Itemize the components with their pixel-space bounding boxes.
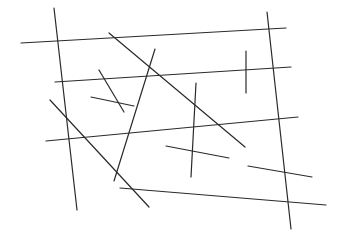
line-segment-steep-diagonal: [114, 49, 155, 181]
line-segment-second-horizontal: [55, 67, 291, 82]
line-segment-center-vertical: [191, 83, 196, 177]
line-segment-bottom-horizontal: [120, 188, 326, 205]
line-segment-center-slant: [166, 146, 229, 158]
line-segment-right-slant: [248, 166, 312, 177]
line-segment-short-slant: [91, 97, 134, 106]
line-segment-short-diagonal: [99, 70, 124, 112]
line-segment-left-vertical: [54, 8, 77, 210]
line-segment-top-horizontal: [21, 28, 286, 43]
line-drawing-canvas: [0, 0, 346, 244]
line-segment-right-vertical: [267, 12, 291, 229]
